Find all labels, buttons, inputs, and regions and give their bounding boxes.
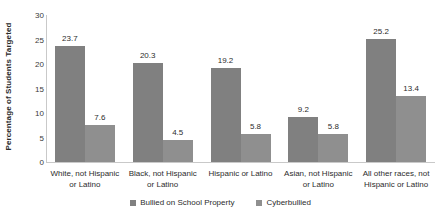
- bar-value-label-1-2: 5.8: [250, 122, 261, 131]
- y-axis-tick-5: 5: [18, 133, 44, 142]
- y-axis-title-text: Percentage of Students Targeted: [5, 22, 14, 150]
- y-axis-tick-0: 0: [18, 158, 44, 167]
- bar-value-label-0-4: 25.2: [373, 27, 389, 36]
- y-axis-tick-10: 10: [18, 109, 44, 118]
- y-axis-tick-25: 25: [18, 35, 44, 44]
- x-axis-category-label-2-line-0: Hispanic or Latino: [200, 168, 282, 179]
- legend-swatch-icon-0: [130, 200, 136, 206]
- legend-label-0: Bullied on School Property: [140, 198, 234, 207]
- bar-0-0: [55, 46, 85, 162]
- x-axis-category-label-1: Black, not Hispanicor Latino: [122, 168, 204, 190]
- bar-value-label-1-0: 7.6: [94, 113, 105, 122]
- x-axis-category-label-0: White, not Hispanicor Latino: [44, 168, 126, 190]
- x-axis-category-label-3-line-1: or Latino: [277, 179, 359, 190]
- bar-chart: Percentage of Students Targeted 05101520…: [0, 0, 441, 222]
- y-axis-tick-20: 20: [18, 60, 44, 69]
- bar-value-label-0-0: 23.7: [62, 34, 78, 43]
- bar-1-3: [318, 134, 348, 162]
- x-axis-category-label-1-line-0: Black, not Hispanic: [122, 168, 204, 179]
- bar-value-label-1-1: 4.5: [172, 128, 183, 137]
- x-axis-category-label-1-line-1: or Latino: [122, 179, 204, 190]
- x-axis-category-label-2: Hispanic or Latino: [200, 168, 282, 179]
- bar-value-label-0-3: 9.2: [298, 105, 309, 114]
- bar-value-label-1-4: 13.4: [403, 84, 419, 93]
- bar-value-label-1-3: 5.8: [328, 122, 339, 131]
- legend-swatch-icon-1: [256, 200, 262, 206]
- bar-1-2: [241, 134, 271, 162]
- y-axis-tick-30: 30: [18, 11, 44, 20]
- x-axis-category-label-4-line-1: Hispanic or Latino: [355, 179, 437, 190]
- bar-1-4: [396, 96, 426, 162]
- bar-value-label-0-1: 20.3: [140, 51, 156, 60]
- legend-item-0[interactable]: Bullied on School Property: [130, 198, 234, 207]
- legend-label-1: Cyberbullied: [266, 198, 310, 207]
- x-axis-category-label-4-line-0: All other races, not: [355, 168, 437, 179]
- bar-0-4: [366, 39, 396, 162]
- legend-item-1[interactable]: Cyberbullied: [256, 198, 310, 207]
- bar-1-1: [163, 140, 193, 162]
- bar-0-2: [211, 68, 241, 162]
- x-axis-category-label-3-line-0: Asian, not Hispanic: [277, 168, 359, 179]
- bar-0-3: [288, 117, 318, 162]
- bar-value-label-0-2: 19.2: [218, 56, 234, 65]
- y-axis-tick-15: 15: [18, 84, 44, 93]
- x-axis-category-label-0-line-0: White, not Hispanic: [44, 168, 126, 179]
- x-axis-category-label-3: Asian, not Hispanicor Latino: [277, 168, 359, 190]
- bar-0-1: [133, 63, 163, 162]
- bar-1-0: [85, 125, 115, 162]
- x-axis-category-label-0-line-1: or Latino: [44, 179, 126, 190]
- x-axis-category-label-4: All other races, notHispanic or Latino: [355, 168, 437, 190]
- x-axis-line: [46, 162, 435, 163]
- legend: Bullied on School PropertyCyberbullied: [0, 198, 441, 207]
- y-axis-tick-labels: 051015202530: [14, 0, 44, 222]
